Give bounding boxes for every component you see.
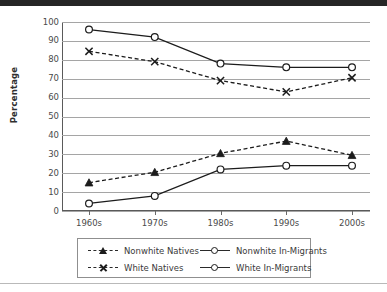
data-point-marker: [151, 58, 158, 65]
legend-item[interactable]: White Natives: [88, 259, 183, 276]
x-tick-label: 1970s: [125, 218, 185, 228]
series-nonwhite-in-migrants: [86, 26, 356, 71]
series-line: [89, 141, 352, 183]
legend-marker-x-icon: [88, 262, 118, 274]
y-tick-label: 30: [33, 150, 59, 159]
data-point-marker: [349, 64, 356, 71]
gridline: [62, 211, 370, 212]
legend-item[interactable]: White In-Migrants: [200, 259, 311, 276]
data-point-marker: [217, 77, 224, 84]
legend-label: Nonwhite Natives: [124, 246, 199, 256]
legend-marker-triangle-icon: [88, 245, 118, 257]
x-tick-mark: [352, 211, 353, 215]
data-point-marker: [86, 26, 93, 33]
series-line: [89, 51, 352, 92]
y-tick-label: 10: [33, 188, 59, 197]
series-white-in-migrants: [86, 162, 356, 207]
legend-marker-circle-icon: [200, 245, 230, 257]
y-tick-label: 60: [33, 93, 59, 102]
data-point-marker: [151, 34, 158, 41]
series-white-natives: [85, 48, 355, 96]
data-point-marker: [282, 137, 290, 144]
plot-area: 0102030405060708090100 1960s1970s1980s19…: [62, 22, 370, 211]
data-point-marker: [217, 166, 224, 173]
series-nonwhite-natives: [85, 137, 356, 186]
data-point-marker: [217, 60, 224, 67]
data-point-marker: [151, 192, 158, 199]
y-tick-label: 40: [33, 131, 59, 140]
x-tick-mark: [155, 211, 156, 215]
y-tick-label: 20: [33, 169, 59, 178]
x-tick-label: 2000s: [322, 218, 382, 228]
x-tick-label: 1990s: [256, 218, 316, 228]
chart-legend: Nonwhite NativesNonwhite In-MigrantsWhit…: [77, 238, 311, 278]
y-tick-label: 100: [33, 18, 59, 27]
y-tick-label: 80: [33, 55, 59, 64]
legend-label: White In-Migrants: [236, 263, 311, 273]
x-tick-mark: [286, 211, 287, 215]
chart-figure: Percentage 0102030405060708090100 1960s1…: [0, 6, 387, 283]
x-tick-label: 1980s: [191, 218, 251, 228]
data-point-marker: [217, 149, 225, 156]
x-tick-label: 1960s: [59, 218, 119, 228]
legend-label: Nonwhite In-Migrants: [236, 246, 327, 256]
legend-item[interactable]: Nonwhite Natives: [88, 242, 199, 259]
y-tick-label: 0: [33, 207, 59, 216]
data-point-marker: [86, 200, 93, 207]
x-tick-mark: [89, 211, 90, 215]
bottom-divider-rule: [0, 283, 387, 284]
data-point-marker: [283, 64, 290, 71]
data-series-layer: [62, 22, 370, 211]
legend-marker-circle-icon: [200, 262, 230, 274]
x-tick-mark: [221, 211, 222, 215]
legend-item[interactable]: Nonwhite In-Migrants: [200, 242, 327, 259]
data-point-marker: [283, 162, 290, 169]
y-axis-title: Percentage: [9, 55, 19, 135]
y-tick-label: 50: [33, 112, 59, 121]
y-tick-label: 90: [33, 36, 59, 45]
y-tick-label: 70: [33, 74, 59, 83]
legend-label: White Natives: [124, 263, 183, 273]
data-point-marker: [349, 162, 356, 169]
